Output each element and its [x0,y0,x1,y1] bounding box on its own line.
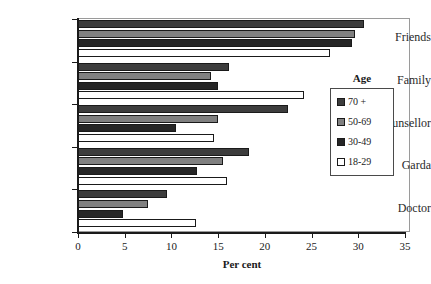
bar [78,210,123,218]
x-tick-label: 0 [63,240,93,252]
bar [78,105,288,113]
x-tick-label: 10 [156,240,186,252]
legend-label: 70 + [348,96,366,107]
bar [78,190,167,198]
x-tick [125,233,126,238]
bar [78,167,197,175]
x-axis-title: Per cent [78,258,406,270]
x-tick [78,233,79,238]
x-tick [358,233,359,238]
bar [78,20,364,28]
bar [78,115,218,123]
bar [78,30,355,38]
bar [78,134,214,142]
x-tick [312,233,313,238]
category-label-doctor: Doctor [359,201,431,216]
bar [78,82,218,90]
y-tick [72,19,78,20]
legend-item[interactable]: 30-49 [337,136,371,147]
x-tick [171,233,172,238]
x-tick-label: 15 [203,240,233,252]
legend-swatch-icon [337,158,345,166]
bar [78,72,211,80]
bar [78,39,352,47]
legend-label: 30-49 [348,136,371,147]
y-tick [72,147,78,148]
legend-swatch-icon [337,118,345,126]
y-tick [72,232,78,233]
legend-label: 18-29 [348,156,371,167]
y-tick [72,189,78,190]
bar [78,200,148,208]
y-tick [72,104,78,105]
bar [78,148,249,156]
x-tick-label: 25 [297,240,327,252]
bar [78,63,229,71]
bar-chart: FriendsFamilyCounsellorGardaDoctor 05101… [0,0,431,284]
legend-item[interactable]: 70 + [337,96,366,107]
legend-title: Age [330,72,394,84]
category-label-friends: Friends [359,30,431,45]
bar [78,124,176,132]
bar [78,177,227,185]
legend-label: 50-69 [348,116,371,127]
legend-item[interactable]: 18-29 [337,156,371,167]
legend-swatch-icon [337,98,345,106]
x-tick [405,233,406,238]
x-tick-label: 35 [390,240,420,252]
y-tick [72,62,78,63]
legend-swatch-icon [337,138,345,146]
bar [78,219,196,227]
legend-item[interactable]: 50-69 [337,116,371,127]
x-axis-line [77,232,406,234]
bar [78,49,330,57]
x-tick-label: 5 [110,240,140,252]
x-tick-label: 20 [250,240,280,252]
x-tick-label: 30 [343,240,373,252]
bar [78,157,223,165]
x-tick [218,233,219,238]
bar [78,91,304,99]
x-tick [265,233,266,238]
